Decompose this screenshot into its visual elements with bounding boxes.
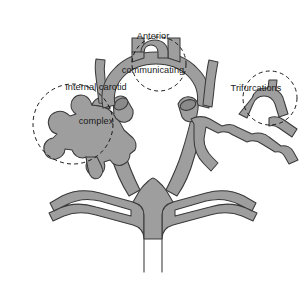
label-trifurcations: Trifurcations	[206, 60, 306, 106]
label-anterior-communicating-line1: Anterior	[0, 31, 306, 42]
label-trifurcations-line1: Trifurcations	[206, 83, 306, 94]
label-internal-carotid-line1: Internal carotid	[0, 82, 192, 93]
label-internal-carotid-complex: Internal carotid complex	[0, 59, 192, 139]
label-internal-carotid-line2: complex	[0, 116, 192, 127]
